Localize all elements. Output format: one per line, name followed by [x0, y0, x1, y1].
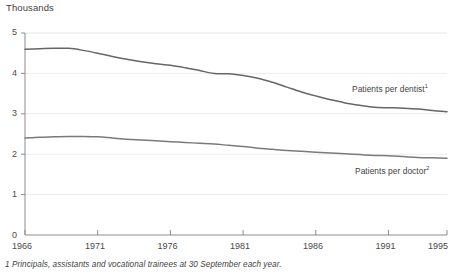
x-tick-label-1981: 1981	[230, 242, 250, 251]
chart-footnote-1: 1 Principals, assistants and vocational …	[5, 260, 282, 269]
x-axis-line	[25, 230, 447, 235]
series-line-patients-per-dentist	[25, 48, 447, 112]
x-tick-label-1991: 1991	[376, 242, 396, 251]
y-tick-label-1: 1	[3, 190, 17, 199]
y-tick-label-0: 0	[3, 231, 17, 240]
y-tick-label-4: 4	[3, 69, 17, 78]
series-annotation-patients-per-doctor: Patients per doctor2	[355, 166, 429, 176]
x-tick-label-1971: 1971	[85, 242, 105, 251]
series-line-patients-per-doctor	[25, 136, 447, 158]
x-tick-label-1986: 1986	[303, 242, 323, 251]
x-tick-label-1976: 1976	[158, 242, 178, 251]
y-tick-label-3: 3	[3, 109, 17, 118]
y-tick-label-2: 2	[3, 150, 17, 159]
x-tick-label-1966: 1966	[12, 242, 32, 251]
series-annotation-patients-per-dentist: Patients per dentist1	[352, 84, 428, 94]
chart-plot-area	[0, 0, 458, 274]
series-annotation-doctor-marker: 2	[426, 165, 429, 171]
series-annotation-dentist-text: Patients per dentist	[352, 84, 425, 94]
series-annotation-doctor-text: Patients per doctor	[355, 166, 426, 176]
series-annotation-dentist-marker: 1	[425, 83, 428, 89]
x-tick-label-1995: 1995	[428, 242, 448, 251]
chart-container: Thousands 5	[0, 0, 458, 274]
y-axis-line	[21, 33, 25, 235]
y-tick-label-5: 5	[3, 28, 17, 37]
